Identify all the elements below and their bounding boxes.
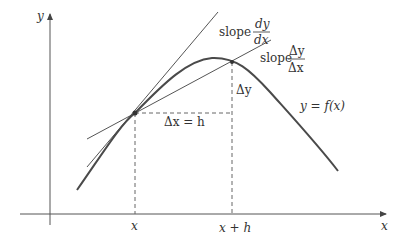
tangent-line xyxy=(87,12,218,167)
point-p xyxy=(133,111,138,116)
secant-slope-denominator: Δx xyxy=(288,61,304,75)
tangent-slope-denominator: dx xyxy=(254,33,269,47)
curve-f xyxy=(77,58,338,190)
x-tick-label: x xyxy=(131,219,138,233)
x-axis-label: x xyxy=(381,219,388,233)
y-axis-label: y xyxy=(36,9,44,23)
secant-slope-numerator: Δy xyxy=(289,44,305,58)
curve-label: y = f(x) xyxy=(299,99,345,113)
delta-x-eq-h-label: Δx = h xyxy=(164,115,205,129)
point-q xyxy=(230,60,234,64)
tangent-slope-numerator: dy xyxy=(255,17,270,31)
delta-y-label: Δy xyxy=(236,83,252,97)
derivative-diagram: y x x x + h slope dy dx slope Δy Δx Δy Δ… xyxy=(0,0,406,240)
tangent-slope-word: slope xyxy=(219,25,251,39)
x-plus-h-tick-label: x + h xyxy=(219,221,251,235)
